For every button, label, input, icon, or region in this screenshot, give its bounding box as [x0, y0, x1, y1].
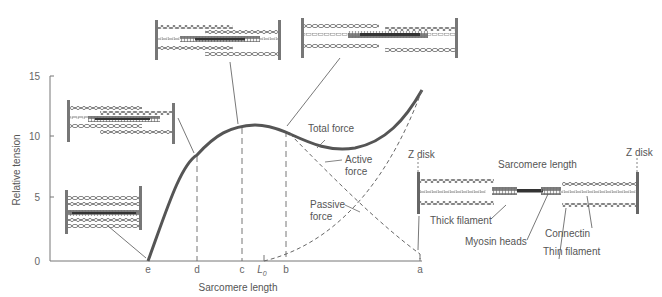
- y-tick-0: 0: [34, 256, 40, 267]
- connectin-label: Connectin: [545, 228, 590, 239]
- x-tick-b: b: [283, 264, 289, 275]
- y-tick-5: 5: [34, 192, 40, 203]
- x-tick-e: e: [145, 264, 151, 275]
- active-force-pointer: [325, 160, 342, 162]
- vertical-guides: [197, 128, 286, 261]
- x-axis-label: Sarcomere length: [199, 282, 278, 293]
- y-axis-label: Relative tension: [11, 134, 22, 205]
- passive-force-pointer: [345, 205, 360, 212]
- sarcomere-d: [67, 100, 175, 144]
- sarcomere-pointers: [108, 58, 340, 258]
- thin-filament-label: Thin filament: [543, 246, 600, 257]
- sarcomere-c: [155, 20, 281, 60]
- x-tick-a: a: [417, 264, 423, 275]
- y-tick-10: 10: [29, 131, 41, 142]
- active-force-label-2: force: [345, 166, 368, 177]
- x-tick-c: c: [240, 264, 245, 275]
- z-disk-left-label: Z disk: [408, 149, 436, 160]
- inset-sarcomere: [417, 158, 639, 259]
- total-force-label: Total force: [308, 123, 355, 134]
- z-disk-right-label: Z disk: [626, 147, 654, 158]
- sarcomere-b: [301, 18, 458, 58]
- passive-force-curve: [264, 90, 422, 261]
- inset-sarcomere-length-label: Sarcomere length: [498, 159, 577, 170]
- x-tick-L0: L0: [257, 264, 267, 277]
- myosin-heads-label: Myosin heads: [465, 236, 527, 247]
- thick-filament-label: Thick filament: [430, 215, 492, 226]
- active-force-curve: [290, 134, 420, 254]
- active-force-label-1: Active: [345, 154, 373, 165]
- total-force-curve: [148, 90, 422, 261]
- passive-force-label-1: Passive: [310, 199, 345, 210]
- sarcomere-tension-diagram: 15 10 5 0 Relative tension e d c L0 b a …: [0, 0, 662, 297]
- sarcomere-e: [65, 186, 142, 234]
- y-tick-15: 15: [29, 71, 41, 82]
- x-tick-d: d: [194, 264, 200, 275]
- passive-force-label-2: force: [310, 211, 333, 222]
